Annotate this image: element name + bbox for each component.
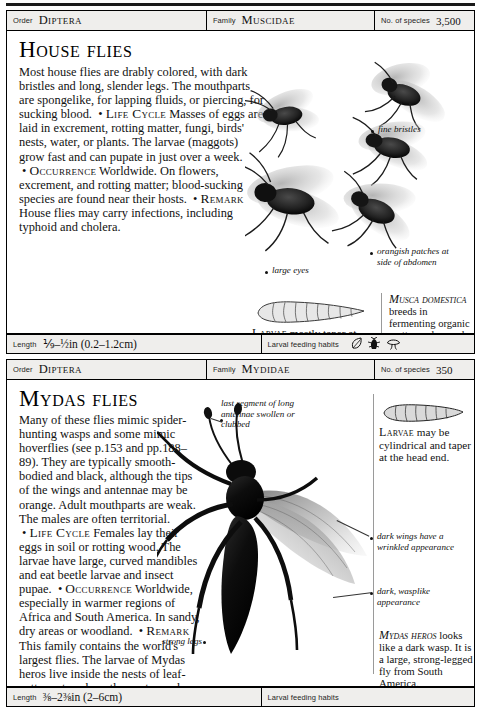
field-guide-page: Order Diptera Family Muscidae No. of spe… xyxy=(0,0,481,713)
bullet-2: • xyxy=(55,582,66,596)
house-flies-illustration xyxy=(245,59,475,274)
entry1-footer-bar: Length ⅑–½in (0.2–1.2cm) Larval feeding … xyxy=(6,334,475,354)
annotation-dark-wasplike: dark, wasplike appearance xyxy=(377,586,459,607)
heading-life-cycle: Life Cycle xyxy=(30,525,90,540)
page-title-house-flies: House flies xyxy=(19,37,132,63)
annotation-orangish-patches: orangish patches at side of abdomen xyxy=(377,246,449,267)
annotation-fine-bristles-text: fine bristles xyxy=(378,124,421,134)
entry1-family-cell: Family Muscidae xyxy=(207,11,375,30)
house-fly-larva-illustration xyxy=(252,299,372,325)
caption-larvae-lead: Larvae xyxy=(379,425,414,439)
annotation-dark-wings-text: dark wings have a wrinkled appearance xyxy=(377,531,454,552)
entry2-intro: Many of these flies mimic spider-hunting… xyxy=(19,413,196,526)
dot-orangish-patches xyxy=(370,252,373,255)
heading-life-cycle: Life Cycle xyxy=(106,106,166,121)
dot-strong-legs xyxy=(203,641,206,644)
habits-label: Larval feeding habits xyxy=(268,340,339,349)
caption-mydas-heros-lead: Mydas heros xyxy=(379,628,436,642)
leaf-icon xyxy=(351,337,363,351)
entry2-order-cell: Order Diptera xyxy=(7,360,207,379)
caption-mydas-larvae: Larvae may be cylindrical and taper at t… xyxy=(379,426,474,464)
bullet-1: • xyxy=(95,107,106,121)
dot-fine-bristles xyxy=(371,130,374,133)
fungus-icon xyxy=(386,337,401,351)
insect-prey-icon xyxy=(368,337,381,351)
annotation-large-eyes-text: large eyes xyxy=(272,265,309,275)
heading-remark: Remark xyxy=(201,191,244,206)
caption-musca-domestica: Musca domestica breeds in fermenting org… xyxy=(389,294,471,334)
length-label: Length xyxy=(13,340,37,349)
annotation-dark-wasplike-text: dark, wasplike appearance xyxy=(377,586,430,607)
leader-dark-wasplike xyxy=(333,592,371,598)
leader-dark-wings xyxy=(337,520,370,537)
entry2-species-cell: No. of species 350 xyxy=(375,360,474,379)
text-remark: House flies may carry infections, includ… xyxy=(19,206,233,234)
species-label: No. of species xyxy=(381,16,430,25)
annotation-clubbed-antennae-text: last segment of long antennae swollen or… xyxy=(221,398,295,429)
page-title-mydas-flies: Mydas flies xyxy=(19,386,138,412)
entry1-habits-cell: Larval feeding habits xyxy=(262,335,474,353)
order-value: Diptera xyxy=(39,13,82,28)
annotation-dark-wings: dark wings have a wrinkled appearance xyxy=(377,531,457,552)
entry2-family-cell: Family Mydidae xyxy=(207,360,375,379)
heading-occurrence: Occurrence xyxy=(30,163,97,178)
dot-large-eyes xyxy=(265,271,268,274)
family-label: Family xyxy=(213,16,236,25)
caption-musca-lead: Musca domestica xyxy=(389,292,466,306)
annotation-clubbed-antennae: last segment of long antennae swollen or… xyxy=(221,398,316,430)
length-value: ⅑–½in (0.2–1.2cm) xyxy=(43,337,137,351)
order-value: Diptera xyxy=(39,362,82,377)
caption-larvae-lead: Larvae xyxy=(252,326,287,334)
entry2-habits-cell: Larval feeding habits xyxy=(262,688,474,706)
entry1-order-cell: Order Diptera xyxy=(7,11,207,30)
entry2-header-bar: Order Diptera Family Mydidae No. of spec… xyxy=(6,359,475,380)
entry2-body: Mydas flies Many of these flies mimic sp… xyxy=(6,380,475,687)
annotation-fine-bristles: fine bristles xyxy=(378,124,448,135)
annotation-strong-legs-text: strong legs xyxy=(162,636,202,646)
entry1-text-block: Most house flies are drably colored, wit… xyxy=(19,65,266,234)
family-value: Mydidae xyxy=(242,362,290,377)
bullet-2: • xyxy=(19,164,30,178)
entry2-footer-bar: Length ⅜–2⅜in (2–6cm) Larval feeding hab… xyxy=(6,687,475,707)
caption-musca-text: breeds in fermenting organic matter and … xyxy=(389,306,470,334)
entry1-body: House flies Most house flies are drably … xyxy=(6,31,475,334)
entry1-header-bar: Order Diptera Family Muscidae No. of spe… xyxy=(6,10,475,31)
entry1-species-cell: No. of species 3,500 xyxy=(375,11,474,30)
species-value: 3,500 xyxy=(436,15,461,27)
caption-divider-rule xyxy=(381,293,382,334)
length-value: ⅜–2⅜in (2–6cm) xyxy=(43,691,123,703)
top-rule xyxy=(6,3,475,6)
mydas-larva-illustration xyxy=(379,402,467,424)
caption-mydas-heros: Mydas heros looks like a dark wasp. It i… xyxy=(379,630,475,687)
entry2-length-cell: Length ⅜–2⅜in (2–6cm) xyxy=(7,688,262,706)
species-value: 350 xyxy=(436,364,453,376)
bullet-3: • xyxy=(190,192,201,206)
family-value: Muscidae xyxy=(242,13,295,28)
heading-occurrence: Occurrence xyxy=(65,581,132,596)
order-label: Order xyxy=(13,16,33,25)
bullet-1: • xyxy=(19,526,30,540)
caption-house-fly-larvae: Larvae mostly taper at the head and are … xyxy=(252,327,370,334)
family-label: Family xyxy=(213,365,236,374)
bullet-3: • xyxy=(136,624,147,638)
order-label: Order xyxy=(13,365,33,374)
species-label: No. of species xyxy=(381,365,430,374)
annotation-strong-legs: strong legs xyxy=(150,636,202,647)
length-label: Length xyxy=(13,693,37,702)
entry-mydas-flies: Order Diptera Family Mydidae No. of spec… xyxy=(6,359,475,707)
habit-icon-group xyxy=(351,337,401,351)
habits-label: Larval feeding habits xyxy=(268,693,339,702)
entry2-caption-divider xyxy=(373,394,374,674)
entry1-length-cell: Length ⅑–½in (0.2–1.2cm) xyxy=(7,335,262,353)
annotation-orangish-patches-text: orangish patches at side of abdomen xyxy=(377,246,449,267)
annotation-large-eyes: large eyes xyxy=(272,265,352,276)
entry-house-flies: Order Diptera Family Muscidae No. of spe… xyxy=(6,10,475,354)
